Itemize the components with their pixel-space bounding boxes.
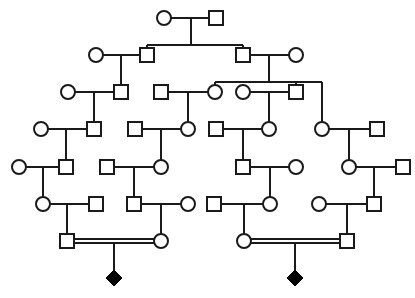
female-individual-icon xyxy=(61,85,75,99)
female-individual-icon xyxy=(262,122,276,136)
male-individual-icon xyxy=(60,234,74,248)
male-individual-icon xyxy=(367,197,381,211)
male-individual-icon xyxy=(127,197,141,211)
male-individual-icon xyxy=(340,234,354,248)
affected-individual-diamond-icon xyxy=(106,270,122,286)
male-individual-icon xyxy=(89,197,103,211)
female-individual-icon xyxy=(312,197,326,211)
female-individual-icon xyxy=(34,122,48,136)
male-individual-icon xyxy=(154,85,168,99)
female-individual-icon xyxy=(154,160,168,174)
female-individual-icon xyxy=(89,48,103,62)
female-individual-icon xyxy=(181,197,195,211)
female-individual-icon xyxy=(36,197,50,211)
male-individual-icon xyxy=(209,122,223,136)
male-individual-icon xyxy=(207,197,221,211)
male-individual-icon xyxy=(370,122,384,136)
female-individual-icon xyxy=(236,85,250,99)
pedigree-diagram xyxy=(0,0,415,298)
female-individual-icon xyxy=(263,197,277,211)
female-individual-icon xyxy=(237,234,251,248)
male-individual-icon xyxy=(209,11,223,25)
male-individual-icon xyxy=(128,122,142,136)
individuals xyxy=(12,11,410,286)
female-individual-icon xyxy=(154,234,168,248)
female-individual-icon xyxy=(208,85,222,99)
male-individual-icon xyxy=(236,48,250,62)
male-individual-icon xyxy=(236,160,250,174)
male-individual-icon xyxy=(140,48,154,62)
male-individual-icon xyxy=(100,160,114,174)
female-individual-icon xyxy=(289,48,303,62)
male-individual-icon xyxy=(289,85,303,99)
female-individual-icon xyxy=(289,160,303,174)
female-individual-icon xyxy=(12,160,26,174)
female-individual-icon xyxy=(315,122,329,136)
affected-individual-diamond-icon xyxy=(287,270,303,286)
male-individual-icon xyxy=(396,160,410,174)
male-individual-icon xyxy=(114,85,128,99)
male-individual-icon xyxy=(87,122,101,136)
female-individual-icon xyxy=(181,122,195,136)
male-individual-icon xyxy=(59,160,73,174)
female-individual-icon xyxy=(342,160,356,174)
female-individual-icon xyxy=(157,11,171,25)
